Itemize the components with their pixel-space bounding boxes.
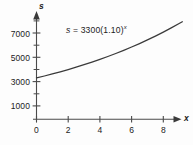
ytick-label-3000: 3000	[2, 77, 30, 87]
y-axis-arrowhead	[33, 11, 40, 20]
equation-annotation: s=3300(1.10)x	[66, 25, 127, 35]
equation-coefficient: 3300	[81, 25, 101, 35]
equation-base: (1.10)	[100, 25, 123, 35]
y-axis-label: s	[39, 1, 44, 11]
xtick-label-2: 2	[61, 125, 75, 135]
xtick-label-8: 8	[156, 125, 170, 135]
x-axis-label: x	[184, 113, 189, 123]
xtick-label-4: 4	[93, 125, 107, 135]
exponential-growth-figure: 7000 5000 3000 1000 0 2 4 6 8 s x s=3300…	[0, 0, 193, 145]
x-axis-arrowhead	[174, 116, 182, 122]
xtick-label-0: 0	[30, 125, 44, 135]
ytick-label-5000: 5000	[2, 53, 30, 63]
equation-equals: =	[70, 25, 80, 35]
plot-canvas	[0, 0, 193, 145]
xtick-label-6: 6	[125, 125, 139, 135]
ytick-label-7000: 7000	[2, 29, 30, 39]
equation-exponent: x	[124, 24, 127, 30]
ytick-label-1000: 1000	[2, 101, 30, 111]
